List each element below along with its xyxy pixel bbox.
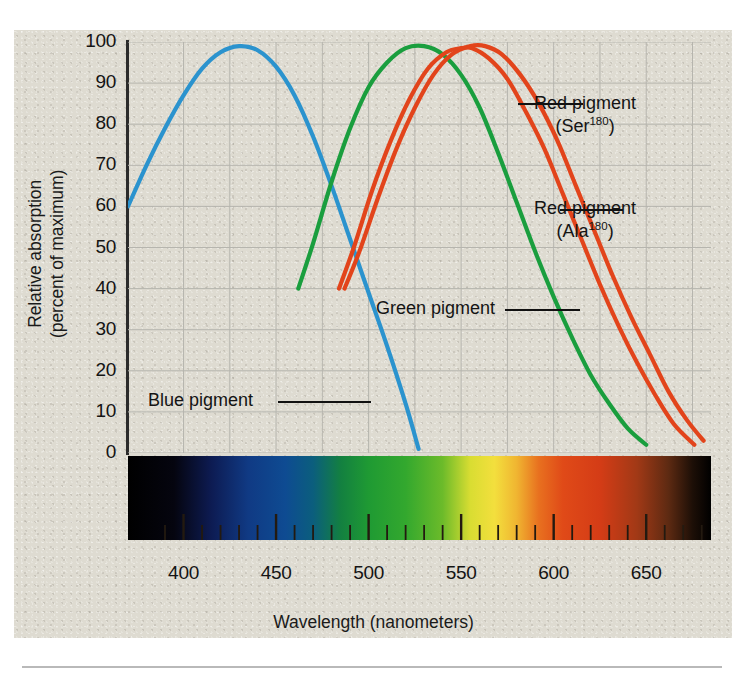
x-tick-450: 450 [241, 562, 311, 584]
y-tick-20: 20 [62, 359, 116, 381]
curve-red-pigment-ala180 [339, 47, 694, 445]
y-tick-90: 90 [62, 71, 116, 93]
red-ser-line1: Red pigment [534, 92, 636, 115]
leader-lines [278, 104, 623, 402]
red-ala-line2: (Ala180) [534, 220, 636, 243]
spectrum-gradient [128, 456, 711, 540]
y-axis-title-line1: Relative absorption [25, 44, 47, 464]
x-tick-650: 650 [611, 562, 681, 584]
y-tick-0: 0 [62, 441, 116, 463]
red-ser-line2: (Ser180) [534, 115, 636, 138]
red-ala-line1: Red pigment [534, 197, 636, 220]
x-tick-600: 600 [519, 562, 589, 584]
red-pigment-ser-label: Red pigment (Ser180) [534, 92, 636, 139]
y-tick-100: 100 [62, 30, 116, 52]
x-tick-400: 400 [149, 562, 219, 584]
x-tick-550: 550 [426, 562, 496, 584]
y-tick-80: 80 [62, 112, 116, 134]
x-axis-title: Wavelength (nanometers) [0, 612, 747, 633]
y-tick-70: 70 [62, 153, 116, 175]
y-tick-60: 60 [62, 194, 116, 216]
blue-pigment-label: Blue pigment [148, 389, 253, 412]
y-tick-50: 50 [62, 236, 116, 258]
y-tick-10: 10 [62, 400, 116, 422]
x-tick-500: 500 [334, 562, 404, 584]
red-pigment-ala-label: Red pigment (Ala180) [534, 197, 636, 244]
green-pigment-label: Green pigment [376, 297, 495, 320]
y-tick-40: 40 [62, 277, 116, 299]
spectrum-bar [128, 456, 711, 540]
bottom-divider [22, 666, 722, 668]
figure-root: Relative absorption (percent of maximum)… [0, 0, 747, 683]
y-tick-30: 30 [62, 318, 116, 340]
